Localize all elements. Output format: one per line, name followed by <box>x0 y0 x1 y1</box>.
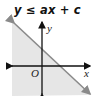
x-axis-label: x <box>83 67 89 79</box>
y-axis-label: y <box>46 22 52 34</box>
inequality-graph: y x O <box>0 0 95 96</box>
origin-label: O <box>31 67 39 79</box>
